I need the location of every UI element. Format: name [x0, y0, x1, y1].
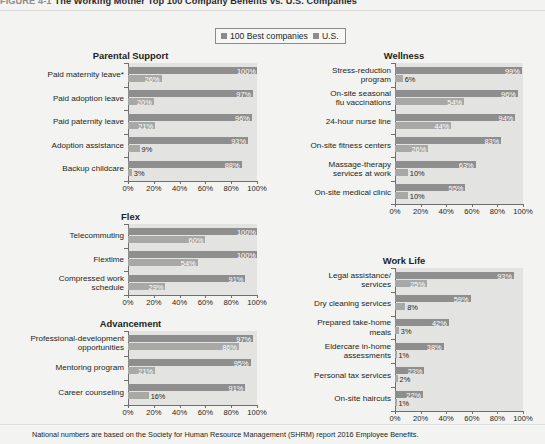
title-divider	[0, 10, 545, 11]
footnote: National numbers are based on the Societ…	[32, 430, 419, 439]
plot-area	[395, 268, 523, 411]
chart-panel-title: Advancement	[4, 318, 257, 329]
category-label: Paid paternity leave	[4, 117, 128, 126]
category-label: On-site fitness centers	[285, 141, 395, 150]
bar-value-label: 6%	[405, 76, 416, 83]
bar-value-label: 26%	[408, 146, 426, 153]
bar-us	[395, 75, 403, 82]
value-axis-tick	[128, 181, 129, 184]
bar-value-label: 94%	[495, 115, 513, 122]
bar-value-label: 10%	[410, 193, 425, 200]
value-axis-tick-label: 80%	[490, 207, 505, 216]
bar-value-label: 54%	[178, 260, 196, 267]
value-axis-tick-label: 60%	[198, 408, 213, 417]
bar-value-label: 38%	[424, 344, 442, 351]
value-axis-tick-label: 20%	[413, 414, 428, 423]
value-axis-tick-label: 0%	[390, 207, 401, 216]
bar-value-label: 29%	[145, 284, 163, 291]
value-axis-tick-label: 20%	[413, 207, 428, 216]
bar-value-label: 54%	[444, 99, 462, 106]
value-axis-tick-label: 80%	[490, 414, 505, 423]
chart-panel-title: Wellness	[285, 50, 523, 61]
category-label: Professional-development opportunities	[4, 334, 128, 352]
bar-value-label: 97%	[233, 91, 251, 98]
bar-value-label: 99%	[502, 68, 520, 75]
value-axis-tick	[128, 295, 129, 298]
value-axis-tick	[154, 405, 155, 408]
category-label: Dry cleaning services	[285, 299, 395, 308]
plot-region: Paid maternity leave*Paid adoption leave…	[4, 63, 257, 195]
bar-us	[128, 145, 140, 152]
bar-value-label: 42%	[429, 320, 447, 327]
value-axis-tick-label: 20%	[146, 184, 161, 193]
value-axis-tick	[231, 181, 232, 184]
value-axis-tick	[523, 411, 524, 414]
value-axis	[128, 405, 257, 406]
value-axis-tick	[154, 295, 155, 298]
bar-us	[395, 375, 398, 382]
bar-value-label: 88%	[222, 162, 240, 169]
value-axis-tick	[497, 204, 498, 207]
value-axis	[128, 181, 257, 182]
category-label: Massage-therapy services at work	[285, 160, 395, 178]
category-label: Mentoring program	[4, 363, 128, 372]
value-axis-tick-label: 100%	[513, 414, 532, 423]
plot-region: TelecommutingFlextimeCompressed work sch…	[4, 224, 257, 309]
bar-value-label: 59%	[451, 296, 469, 303]
bar-value-label: 20%	[134, 99, 152, 106]
value-axis	[128, 295, 257, 296]
value-axis-tick-label: 40%	[439, 207, 454, 216]
figure-title-text: The Working Mother Top 100 Company Benef…	[55, 0, 357, 6]
bar-value-label: 83%	[481, 138, 499, 145]
value-axis-tick-label: 40%	[172, 408, 187, 417]
bar-us	[128, 169, 132, 176]
value-axis-tick-label: 40%	[172, 298, 187, 307]
category-label: Flextime	[4, 255, 128, 264]
value-axis-tick	[205, 181, 206, 184]
bar-value-label: 91%	[225, 385, 243, 392]
bar-value-label: 100%	[237, 229, 255, 236]
chart-panel-work-life: Work LifeLegal assistance/ servicesDry c…	[285, 255, 523, 425]
value-axis-tick-label: 100%	[513, 207, 532, 216]
value-axis-tick	[395, 411, 396, 414]
value-axis-tick	[128, 405, 129, 408]
bar-us	[128, 392, 149, 399]
chart-panel-flex: FlexTelecommutingFlextimeCompressed work…	[4, 211, 257, 309]
bar-us	[395, 169, 408, 176]
bar-value-label: 100%	[237, 252, 255, 259]
bar-value-label: 1%	[399, 352, 410, 359]
bar-value-label: 26%	[142, 76, 160, 83]
bar-value-label: 21%	[135, 368, 153, 375]
bar-value-label: 55%	[445, 185, 463, 192]
value-axis-tick	[180, 181, 181, 184]
value-axis-tick-label: 60%	[464, 414, 479, 423]
value-axis-tick	[421, 411, 422, 414]
chart-panel-parental-support: Parental SupportPaid maternity leave*Pai…	[4, 50, 257, 195]
category-label: Adoption assistance	[4, 141, 128, 150]
category-label: Prepared take-home meals	[285, 318, 395, 336]
value-axis-tick	[472, 204, 473, 207]
bar-value-label: 44%	[431, 123, 449, 130]
plot-region: Stress-reduction programOn-site seasonal…	[285, 63, 523, 218]
value-axis-tick-label: 0%	[123, 298, 134, 307]
value-axis-tick	[446, 411, 447, 414]
legend-label-best: 100 Best companies	[230, 31, 308, 41]
category-axis: Stress-reduction programOn-site seasonal…	[285, 63, 395, 218]
chart-panel-title: Flex	[4, 211, 257, 222]
bar-us	[395, 327, 399, 334]
legend-swatch-icon	[313, 33, 319, 39]
category-label: Legal assistance/ services	[285, 271, 395, 289]
bar-value-label: 22%	[403, 392, 421, 399]
bar-value-label: 1%	[399, 400, 410, 407]
value-axis-tick-label: 80%	[224, 184, 239, 193]
plot-region: Professional-development opportunitiesMe…	[4, 331, 257, 419]
value-axis-tick-label: 0%	[123, 184, 134, 193]
bar-value-label: 86%	[219, 344, 237, 351]
value-axis	[395, 204, 523, 205]
chart-panel-title: Work Life	[285, 255, 523, 266]
value-axis-tick	[180, 405, 181, 408]
category-label: Compressed work schedule	[4, 274, 128, 292]
bar-value-label: 93%	[494, 273, 512, 280]
bar-value-label: 3%	[134, 170, 145, 177]
legend-item-us: U.S.	[313, 31, 339, 41]
